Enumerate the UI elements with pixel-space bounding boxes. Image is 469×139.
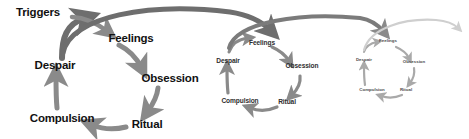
label-obsession-c2: Obsession [286,63,319,70]
label-ritual-c1: Ritual [132,119,163,131]
label-compulsion-c3: Compulsion [359,88,384,92]
arrow-feelings-to-obsession [119,45,141,67]
connector-cycle1-to-cycle2 [63,9,270,53]
arrow-despair-to-feelings-c2 [229,38,248,52]
arrow-compulsion-to-despair-c3 [364,66,365,85]
arrow-despair-to-feelings-c3 [364,42,377,52]
arrow-compulsion-to-despair-c2 [227,68,228,93]
label-ritual-c3: Ritual [400,88,412,92]
label-feelings-c3: Feelings [379,39,397,43]
arrow-feelings-to-obsession-c2 [272,47,289,61]
label-triggers-c1: Triggers [16,7,60,19]
connector-cycle3-to-next [364,20,458,50]
label-feelings-c2: Feelings [249,40,275,47]
arrow-triggers-to-feelings [72,17,107,31]
ocd-cycle-diagram: Triggers Feelings Obsession Ritual Compu… [0,0,469,139]
label-compulsion-c2: Compulsion [221,98,258,105]
arrow-ritual-to-compulsion-c3 [381,95,402,97]
label-obsession-c3: Obsession [403,60,425,64]
label-despair-c3: Despair [356,58,372,62]
arrow-obsession-to-ritual-c2 [292,76,300,95]
arrow-obsession-to-ritual-c3 [410,68,414,83]
arrow-despair-to-triggers [62,18,85,58]
label-obsession-c1: Obsession [142,73,199,85]
label-feelings-c1: Feelings [108,33,153,45]
label-despair-c2: Despair [216,58,240,65]
arrow-feelings-to-obsession-c3 [396,47,409,58]
arrow-ritual-to-compulsion [92,125,126,129]
label-compulsion-c1: Compulsion [30,113,94,125]
arrow-ritual-to-compulsion-c2 [250,107,277,110]
arrow-obsession-to-ritual [148,88,158,111]
label-despair-c1: Despair [35,60,76,72]
label-ritual-c2: Ritual [278,99,296,106]
arrow-compulsion-to-despair [56,76,57,108]
